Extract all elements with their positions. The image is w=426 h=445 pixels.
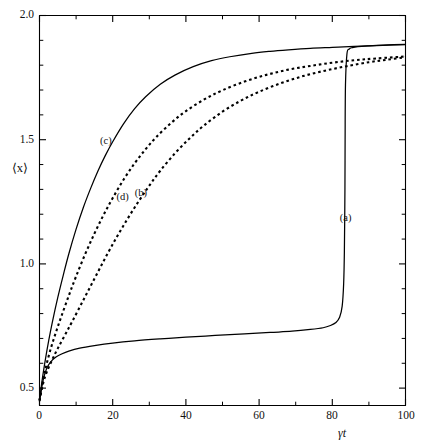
plot-canvas bbox=[0, 0, 426, 445]
y-axis-label: ⟨x⟩ bbox=[4, 162, 36, 175]
y-tick-label-0-5: 0.5 bbox=[8, 382, 34, 394]
figure-container: 2.0 1.5 1.0 0.5 ⟨x⟩ 0 20 40 60 80 100 γt… bbox=[0, 0, 426, 445]
x-tick-label-20: 20 bbox=[100, 410, 126, 422]
y-tick-label-1-5: 1.5 bbox=[8, 134, 34, 146]
x-tick-label-100: 100 bbox=[391, 410, 421, 422]
axis-ticks bbox=[40, 16, 406, 406]
curve-label-a: (a) bbox=[340, 213, 352, 224]
axes-frame bbox=[40, 16, 406, 406]
curve-d bbox=[40, 56, 406, 400]
x-axis-label: γt bbox=[330, 427, 354, 439]
curve-b bbox=[40, 57, 406, 400]
x-tick-label-0: 0 bbox=[27, 410, 51, 422]
y-tick-label-1-0: 1.0 bbox=[8, 258, 34, 270]
x-tick-label-40: 40 bbox=[173, 410, 199, 422]
x-tick-label-60: 60 bbox=[246, 410, 272, 422]
curve-label-d: (d) bbox=[117, 192, 129, 203]
x-tick-label-80: 80 bbox=[319, 410, 345, 422]
y-tick-label-2-0: 2.0 bbox=[8, 9, 34, 21]
curve-label-c: (c) bbox=[100, 136, 112, 147]
axes-box bbox=[40, 16, 406, 406]
curve-label-b: (b) bbox=[135, 188, 147, 199]
